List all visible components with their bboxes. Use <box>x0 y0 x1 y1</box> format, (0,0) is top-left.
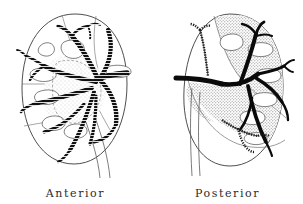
anterior-caption: Anterior <box>0 187 151 200</box>
panel-posterior: Posterior <box>152 0 303 204</box>
kidney-segment-figure: Anterior <box>0 0 303 204</box>
anterior-kidney-drawing <box>0 0 151 182</box>
panel-anterior: Anterior <box>0 0 151 204</box>
posterior-caption: Posterior <box>152 187 303 200</box>
posterior-kidney-drawing <box>152 0 303 182</box>
